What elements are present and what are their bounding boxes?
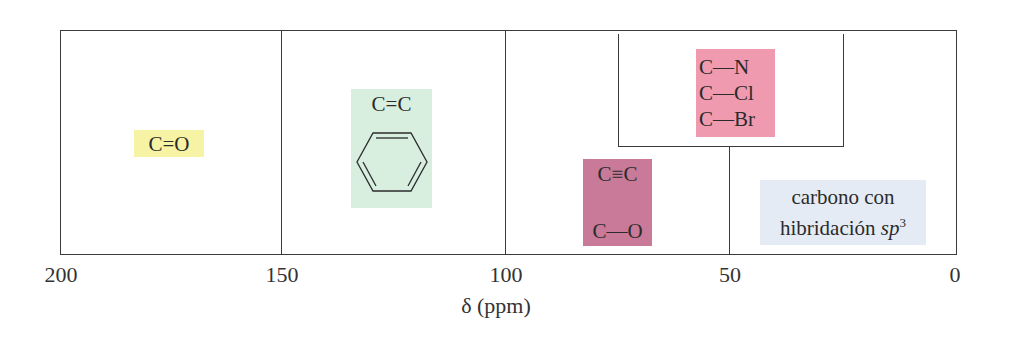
- upper-box-bottom: [618, 146, 844, 147]
- carbonyl-text: C=O: [148, 131, 189, 157]
- sp3-superscript: 3: [900, 215, 907, 230]
- frame-right: [956, 30, 957, 255]
- sp3-line1: carbono con: [791, 184, 894, 210]
- tick-50: 50: [719, 262, 741, 288]
- alkene-aromatic-label: C=C: [351, 89, 432, 208]
- frame-left: [60, 30, 61, 255]
- alkyne-ether-label: C≡C C—O: [583, 159, 652, 246]
- divider-150: [281, 30, 282, 255]
- c-cl-text: C—Cl: [699, 80, 754, 106]
- carbonyl-label: C=O: [134, 130, 204, 157]
- c-n-text: C—N: [699, 54, 749, 80]
- divider-50: [729, 146, 730, 255]
- sp3-label: carbono con hibridación sp3: [760, 180, 926, 245]
- axis-title: δ (ppm): [461, 293, 531, 319]
- tick-150: 150: [266, 262, 299, 288]
- divider-100: [505, 30, 506, 255]
- tick-200: 200: [45, 262, 78, 288]
- upper-box-right: [843, 34, 844, 146]
- frame-bottom-axis: [60, 254, 957, 255]
- alkene-text: C=C: [372, 91, 412, 117]
- sp3-line2: hibridación sp3: [780, 210, 906, 241]
- alkyne-text: C≡C: [598, 161, 638, 187]
- ether-text: C—O: [592, 218, 642, 244]
- heteroatom-label: C—N C—Cl C—Br: [696, 49, 775, 137]
- frame-top: [60, 30, 957, 31]
- tick-0: 0: [950, 262, 961, 288]
- c-br-text: C—Br: [699, 106, 755, 132]
- tick-100: 100: [490, 262, 523, 288]
- benzene-ring-icon: [355, 125, 429, 201]
- sp3-hibridacion: hibridación: [780, 216, 876, 240]
- upper-box-left: [618, 34, 619, 146]
- sp3-italic: sp: [881, 216, 900, 240]
